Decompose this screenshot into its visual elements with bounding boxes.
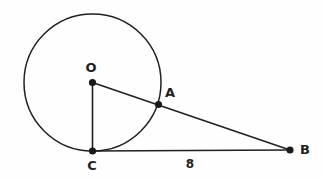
geometry-figure: O A C B 8	[0, 0, 323, 179]
vertex-dot-b	[286, 146, 293, 153]
point-label-c: C	[87, 158, 97, 173]
vertex-dot-a	[155, 101, 162, 108]
vertex-dot-c	[89, 147, 96, 154]
geometry-canvas: O A C B 8	[0, 0, 323, 179]
point-label-o: O	[85, 60, 96, 75]
segment-o-to-b	[93, 83, 291, 151]
point-label-b: B	[300, 142, 310, 157]
length-label-cb: 8	[186, 157, 194, 171]
point-label-a: A	[165, 85, 175, 100]
vertex-dot-o	[89, 79, 96, 86]
segment-c-to-b	[93, 150, 291, 151]
